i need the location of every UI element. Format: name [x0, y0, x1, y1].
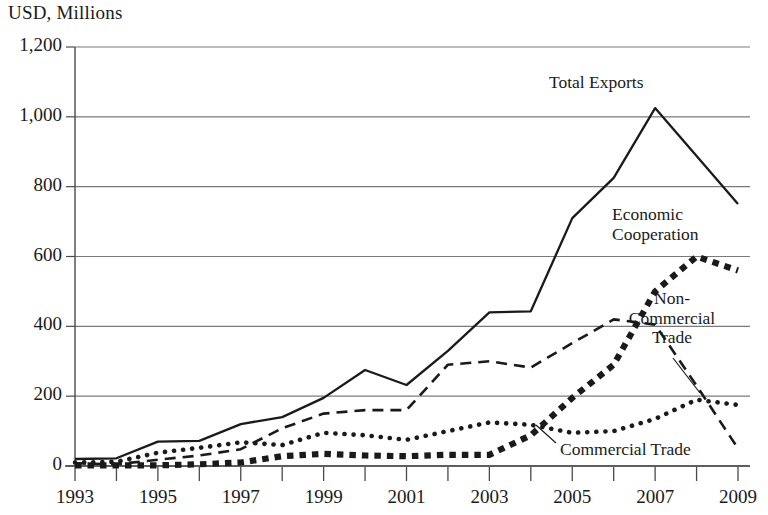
x-axis-tick-label: 2005 [537, 486, 607, 508]
x-axis-tick-label: 1993 [40, 486, 110, 508]
series-line-total-exports [75, 108, 738, 459]
series-line-economic-cooperation [75, 257, 738, 466]
y-axis-tick-label: 1,000 [0, 104, 62, 126]
chart-plot-area [0, 0, 768, 515]
x-axis-tick-label: 1999 [289, 486, 359, 508]
leader-line-non-commercial-trade [673, 358, 700, 393]
y-axis-tick-label: 0 [0, 453, 62, 475]
y-axis-tick-label: 200 [0, 383, 62, 405]
x-axis-tick-label: 2007 [620, 486, 690, 508]
x-axis-ticks-group [75, 467, 738, 481]
series-label-non-commercial-trade: Non-CommercialTrade [617, 289, 727, 348]
chart-container: USD, Millions 02004006008001,0001,200 19… [0, 0, 768, 515]
series-label-commercial-trade: Commercial Trade [560, 440, 691, 460]
x-axis-tick-label: 2001 [372, 486, 442, 508]
y-axis-tick-label: 800 [0, 174, 62, 196]
y-axis-tick-label: 600 [0, 244, 62, 266]
y-axis-tick-label: 400 [0, 313, 62, 335]
x-axis-tick-label: 1995 [123, 486, 193, 508]
series-label-economic-cooperation: EconomicCooperation [612, 205, 699, 244]
y-axis-tick-label: 1,200 [0, 34, 62, 56]
x-axis-tick-label: 2009 [703, 486, 768, 508]
series-label-total-exports: Total Exports [549, 73, 644, 93]
x-axis-tick-label: 1997 [206, 486, 276, 508]
data-series-group [75, 108, 738, 465]
x-axis-tick-label: 2003 [454, 486, 524, 508]
